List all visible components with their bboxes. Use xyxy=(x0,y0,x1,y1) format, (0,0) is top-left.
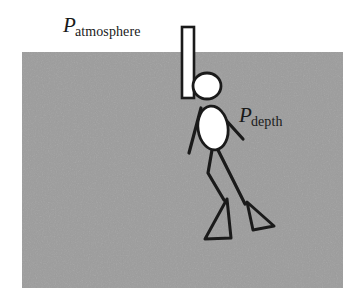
label-p-atmosphere-symbol: P xyxy=(63,13,76,37)
diagram-canvas xyxy=(0,0,363,303)
label-p-atmosphere-subscript: atmosphere xyxy=(75,24,141,39)
pressure-diagram-figure: Patmosphere Pdepth xyxy=(0,0,363,303)
label-p-atmosphere: Patmosphere xyxy=(63,15,141,36)
label-p-depth: Pdepth xyxy=(239,105,284,126)
label-p-depth-subscript: depth xyxy=(251,114,283,129)
diver-head xyxy=(193,73,221,99)
label-p-depth-symbol: P xyxy=(239,103,252,127)
